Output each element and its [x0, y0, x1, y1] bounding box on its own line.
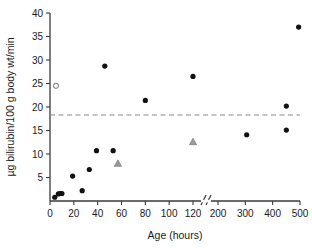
- data-point-filled-circle: [94, 148, 99, 153]
- x-tick-label: 40: [92, 208, 104, 219]
- x-tick-label: 120: [185, 208, 202, 219]
- data-point-triangle: [114, 160, 121, 167]
- y-tick-label: 40: [32, 8, 44, 19]
- x-tick-label: 200: [210, 208, 227, 219]
- x-tick-label: 100: [161, 208, 178, 219]
- x-tick-label: 300: [237, 208, 254, 219]
- x-tick-label: 400: [264, 208, 281, 219]
- data-point-filled-circle: [190, 74, 195, 79]
- y-tick-label: 5: [37, 172, 43, 183]
- data-point-filled-circle: [143, 98, 148, 103]
- data-point-filled-circle: [87, 167, 92, 172]
- chart-canvas: 5101520253035400204060801001202003004005…: [0, 0, 312, 248]
- y-tick-label: 30: [32, 55, 44, 66]
- x-tick-label: 20: [68, 208, 80, 219]
- data-point-filled-circle: [102, 64, 107, 69]
- y-tick-label: 35: [32, 31, 44, 42]
- data-point-filled-circle: [296, 25, 301, 30]
- x-tick-label: 0: [47, 208, 53, 219]
- y-axis-title: µg bilirubin/100 g body wt/min: [4, 37, 16, 176]
- data-point-filled-circle: [284, 103, 289, 108]
- data-point-filled-circle: [244, 132, 249, 137]
- y-tick-label: 10: [32, 149, 44, 160]
- y-tick-label: 25: [32, 78, 44, 89]
- data-point-filled-circle: [80, 188, 85, 193]
- data-point-open-circle: [53, 83, 58, 88]
- x-tick-label: 500: [292, 208, 309, 219]
- y-tick-label: 15: [32, 125, 44, 136]
- data-point-filled-circle: [70, 173, 75, 178]
- data-point-triangle: [189, 138, 196, 145]
- data-point-filled-circle: [111, 148, 116, 153]
- scatter-chart-figure: 5101520253035400204060801001202003004005…: [0, 0, 312, 248]
- y-tick-label: 20: [32, 102, 44, 113]
- x-axis-break-marker: [201, 195, 211, 205]
- x-tick-label: 60: [116, 208, 128, 219]
- x-tick-label: 80: [140, 208, 152, 219]
- data-point-filled-circle: [59, 191, 64, 196]
- data-point-filled-circle: [284, 127, 289, 132]
- x-axis-title: Age (hours): [148, 229, 203, 241]
